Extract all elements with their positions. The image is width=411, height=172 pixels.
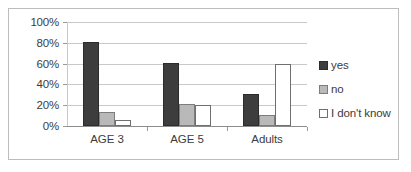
bar-group — [83, 22, 131, 126]
bar-group — [163, 22, 211, 126]
bar — [243, 94, 259, 126]
legend-entry[interactable]: no — [319, 77, 411, 101]
x-tick-label: Adults — [227, 133, 307, 146]
legend-label: no — [331, 83, 344, 95]
legend-label: yes — [331, 59, 349, 71]
bar — [179, 104, 195, 126]
bar — [163, 63, 179, 126]
legend-label: I don't know — [331, 107, 391, 119]
x-tick-label: AGE 5 — [147, 133, 227, 146]
bar — [99, 112, 115, 126]
bar-group — [243, 22, 291, 126]
x-tick-mark — [307, 127, 308, 131]
y-tick-label: 80% — [13, 38, 59, 49]
legend-swatch-icon — [319, 61, 328, 70]
chart-legend: yesnoI don't know — [319, 53, 411, 125]
bar — [275, 64, 291, 126]
bar — [259, 115, 275, 126]
y-tick-label: 100% — [13, 17, 59, 28]
y-tick-label: 40% — [13, 79, 59, 90]
legend-entry[interactable]: yes — [319, 53, 411, 77]
y-tick-label: 20% — [13, 100, 59, 111]
x-axis-line — [67, 126, 307, 127]
legend-swatch-icon — [319, 85, 328, 94]
chart-frame: 100%80%60%40%20%0% AGE 3AGE 5Adults yesn… — [8, 8, 399, 160]
legend-swatch-icon — [319, 109, 328, 118]
x-tick-mark — [227, 127, 228, 131]
y-tick-label: 0% — [13, 121, 59, 132]
x-axis: AGE 3AGE 5Adults — [67, 133, 307, 151]
plot-area — [67, 22, 307, 127]
legend-entry[interactable]: I don't know — [319, 101, 411, 125]
bar — [83, 42, 99, 126]
y-tick-label: 60% — [13, 59, 59, 70]
x-tick-mark — [147, 127, 148, 131]
y-axis: 100%80%60%40%20%0% — [13, 22, 59, 127]
bars-layer — [67, 22, 307, 127]
x-tick-label: AGE 3 — [67, 133, 147, 146]
bar — [195, 105, 211, 126]
